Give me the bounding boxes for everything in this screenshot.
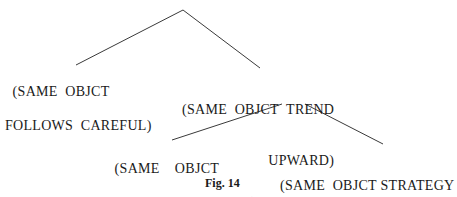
node-line-2: MANAGE CAREFUL) <box>107 194 256 197</box>
edge-root-n1 <box>76 10 183 65</box>
node-follows-careful: (SAME OBJCT FOLLOWS CAREFUL) <box>5 66 152 151</box>
node-line-1: (SAME OBJCT <box>115 161 220 176</box>
node-line-1: (SAME OBJCT <box>13 84 110 99</box>
node-strategy-conservative: (SAME OBJCT STRATEGY CONSERVATIVE) <box>280 143 454 197</box>
node-line-1: (SAME OBJCT STRATEGY <box>280 177 454 194</box>
node-line-2: FOLLOWS CAREFUL) <box>5 117 152 134</box>
figure-caption: Fig. 14 <box>205 176 240 191</box>
node-line-1: (SAME OBJCT TREND <box>182 101 334 118</box>
edge-root-n2 <box>183 10 260 68</box>
